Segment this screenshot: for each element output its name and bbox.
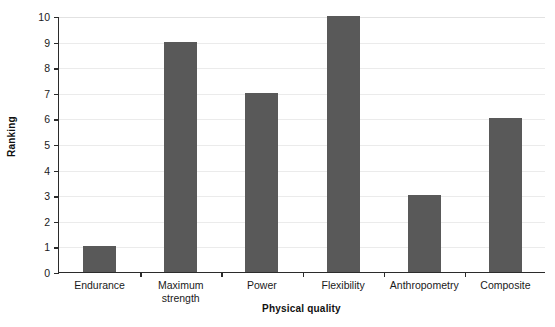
y-tick-label: 1 [44, 241, 50, 253]
y-tick-label: 4 [44, 165, 50, 177]
y-tick-label: 3 [44, 190, 50, 202]
gridline [59, 171, 545, 172]
y-tick-mark [54, 247, 59, 248]
x-tick-mark [303, 272, 304, 277]
gridline [59, 119, 545, 120]
bar [245, 93, 278, 272]
y-axis-title: Ranking [2, 0, 20, 273]
gridline [59, 43, 545, 44]
gridline [59, 222, 545, 223]
y-tick-mark [54, 68, 59, 69]
y-tick-mark [54, 17, 59, 18]
x-tick-label: Composite [459, 279, 551, 292]
y-tick-label: 0 [44, 267, 50, 279]
gridline [59, 17, 545, 18]
bar [164, 42, 197, 272]
y-tick-mark [54, 222, 59, 223]
bar [408, 195, 441, 272]
y-tick-label: 8 [44, 62, 50, 74]
y-tick-mark [54, 145, 59, 146]
y-tick-mark [54, 171, 59, 172]
bar [489, 118, 522, 272]
x-tick-label: Flexibility [297, 279, 389, 292]
y-tick-label: 6 [44, 113, 50, 125]
y-tick-label: 5 [44, 139, 50, 151]
bar [83, 246, 116, 272]
x-tick-label: Endurance [54, 279, 146, 292]
y-tick-label: 7 [44, 88, 50, 100]
plot-area: 012345678910 EnduranceMaximum strengthPo… [58, 17, 545, 273]
y-tick-mark [54, 43, 59, 44]
y-tick-mark [54, 196, 59, 197]
x-tick-mark [465, 272, 466, 277]
x-tick-label: Power [216, 279, 308, 292]
x-tick-label: Maximum strength [135, 279, 227, 304]
y-tick-mark [54, 119, 59, 120]
y-tick-label: 9 [44, 37, 50, 49]
y-tick-label: 10 [38, 11, 50, 23]
y-tick-mark [54, 94, 59, 95]
x-tick-mark [221, 272, 222, 277]
x-axis-title: Physical quality [58, 303, 545, 314]
gridline [59, 196, 545, 197]
x-tick-mark [384, 272, 385, 277]
y-axis-title-text: Ranking [6, 116, 17, 157]
x-tick-label: Anthropometry [378, 279, 470, 292]
bar-chart: Ranking 012345678910 EnduranceMaximum st… [0, 0, 555, 327]
gridline [59, 145, 545, 146]
y-tick-mark [54, 273, 59, 274]
gridline [59, 247, 545, 248]
x-tick-mark [140, 272, 141, 277]
y-tick-label: 2 [44, 216, 50, 228]
gridline [59, 94, 545, 95]
gridline [59, 68, 545, 69]
bar [327, 16, 360, 272]
